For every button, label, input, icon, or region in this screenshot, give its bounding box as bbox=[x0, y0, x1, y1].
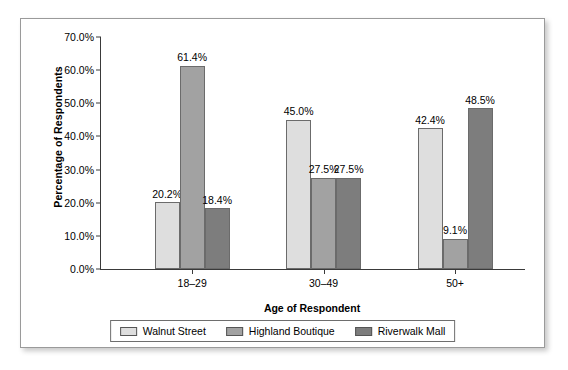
plot-area: 70.0%60.0%50.0%40.0%30.0%20.0%10.0%0.0%2… bbox=[100, 37, 525, 270]
y-axis-tick-label: 30.0% bbox=[64, 164, 101, 176]
y-axis-tick-label: 10.0% bbox=[64, 230, 101, 242]
bar-value-label: 48.5% bbox=[465, 95, 495, 106]
bar-value-label: 18.4% bbox=[202, 195, 232, 206]
y-axis-tick-label: 20.0% bbox=[64, 197, 101, 209]
bar-value-label: 61.4% bbox=[177, 52, 207, 63]
bar-column: 27.5% bbox=[336, 37, 361, 269]
chart-figure-panel: Percentage of Respondents 70.0%60.0%50.0… bbox=[20, 18, 545, 348]
bar-column: 48.5% bbox=[468, 37, 493, 269]
bar-value-label: 27.5% bbox=[334, 164, 364, 175]
bar-group: 42.4%9.1%48.5% bbox=[418, 37, 493, 269]
y-axis-tick-label: 70.0% bbox=[64, 31, 101, 43]
bar[interactable] bbox=[286, 120, 311, 269]
bar[interactable] bbox=[180, 66, 205, 269]
legend-item-label: Walnut Street bbox=[143, 325, 206, 337]
legend-item[interactable]: Walnut Street bbox=[120, 325, 206, 337]
y-axis-title: Percentage of Respondents bbox=[52, 37, 64, 237]
x-axis-tick-mark bbox=[455, 269, 456, 274]
bar-value-label: 9.1% bbox=[443, 225, 467, 236]
bar-chart: Percentage of Respondents 70.0%60.0%50.0… bbox=[21, 19, 544, 347]
bar-column: 45.0% bbox=[286, 37, 311, 269]
legend-item-label: Highland Boutique bbox=[249, 325, 335, 337]
y-axis-tick-label: 50.0% bbox=[64, 97, 101, 109]
x-axis-category-label: 30–49 bbox=[309, 277, 338, 289]
bar[interactable] bbox=[205, 208, 230, 269]
x-axis-title: Age of Respondent bbox=[100, 302, 524, 314]
legend-swatch-walnut-street bbox=[120, 327, 137, 336]
bar[interactable] bbox=[336, 178, 361, 269]
bar-value-label: 20.2% bbox=[152, 189, 182, 200]
y-axis-tick-label: 60.0% bbox=[64, 64, 101, 76]
bar-value-label: 42.4% bbox=[415, 115, 445, 126]
legend-swatch-riverwalk-mall bbox=[355, 327, 372, 336]
bar[interactable] bbox=[155, 202, 180, 269]
bar-group: 45.0%27.5%27.5% bbox=[286, 37, 361, 269]
bar-column: 27.5% bbox=[311, 37, 336, 269]
bar[interactable] bbox=[443, 239, 468, 269]
bar-column: 42.4% bbox=[418, 37, 443, 269]
legend-swatch-highland-boutique bbox=[226, 327, 243, 336]
bar[interactable] bbox=[418, 128, 443, 269]
bar-column: 18.4% bbox=[205, 37, 230, 269]
bar[interactable] bbox=[311, 178, 336, 269]
legend-item[interactable]: Highland Boutique bbox=[226, 325, 335, 337]
scan-artifact-strip bbox=[0, 0, 568, 8]
legend-item[interactable]: Riverwalk Mall bbox=[355, 325, 446, 337]
chart-legend: Walnut StreetHighland BoutiqueRiverwalk … bbox=[110, 320, 456, 342]
bar[interactable] bbox=[468, 108, 493, 269]
bar-group: 20.2%61.4%18.4% bbox=[155, 37, 230, 269]
x-axis-category-label: 50+ bbox=[446, 277, 464, 289]
bar-value-label: 45.0% bbox=[284, 106, 314, 117]
y-axis-tick-label: 40.0% bbox=[64, 130, 101, 142]
bar-column: 20.2% bbox=[155, 37, 180, 269]
y-axis-tick-label: 0.0% bbox=[70, 263, 101, 275]
bar-column: 9.1% bbox=[443, 37, 468, 269]
x-axis-tick-mark bbox=[192, 269, 193, 274]
legend-item-label: Riverwalk Mall bbox=[378, 325, 446, 337]
x-axis-tick-mark bbox=[324, 269, 325, 274]
x-axis-category-label: 18–29 bbox=[178, 277, 207, 289]
bar-column: 61.4% bbox=[180, 37, 205, 269]
